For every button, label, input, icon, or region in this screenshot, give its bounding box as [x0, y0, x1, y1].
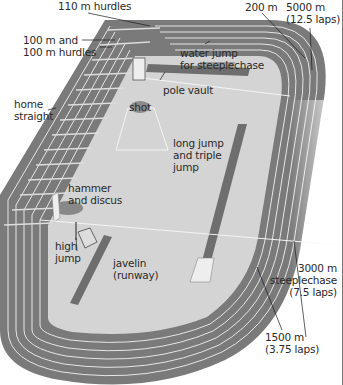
label-pole-vault: pole vault	[163, 84, 213, 96]
label-110m-hurdles: 110 m hurdles	[58, 0, 131, 12]
label-5000m: 5000 m (12.5 laps)	[286, 1, 340, 25]
label-100m-hurdles: 100 m and 100 m hurdles	[23, 34, 96, 58]
label-high-jump: high jump	[55, 240, 81, 264]
label-long-jump: long jump and triple jump	[173, 137, 224, 173]
label-shot: shot	[129, 101, 151, 113]
label-javelin: javelin (runway)	[113, 257, 158, 281]
label-hammer-discus: hammer and discus	[68, 182, 122, 206]
label-1500m: 1500 m (3.75 laps)	[265, 331, 319, 355]
label-home-straight: home straight	[14, 98, 53, 122]
label-200m: 200 m	[245, 1, 278, 13]
label-water-jump: water jump for steeplechase	[180, 47, 264, 71]
athletics-track-diagram: 110 m hurdles 100 m and 100 m hurdles ho…	[0, 0, 343, 385]
label-3000m-steeplechase: 3000 m steeplechase (7.5 laps)	[270, 262, 337, 298]
